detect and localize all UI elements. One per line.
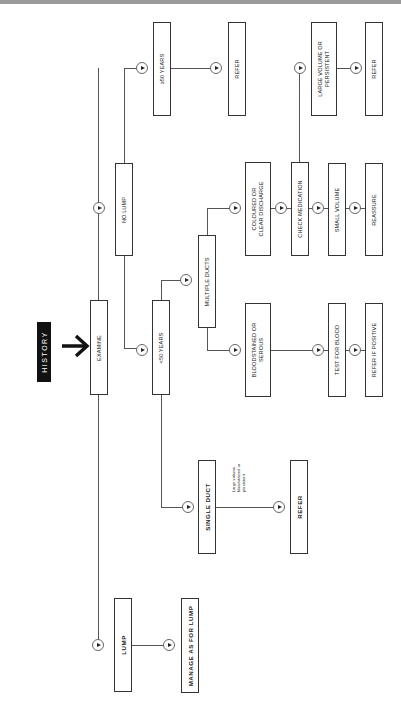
test-for-blood-text: TEST FOR BLOOD: [334, 325, 341, 375]
play-circle-icon: [92, 639, 104, 651]
play-circle-icon: [312, 344, 324, 356]
examine-text: EXAMINE: [96, 335, 103, 361]
check-medication-text: CHECK MEDICATION: [297, 180, 304, 237]
play-circle-icon: [294, 62, 306, 74]
connector-line: [207, 328, 208, 350]
refer-text: REFER: [371, 59, 378, 78]
play-circle-icon: [163, 639, 175, 651]
over-50-box: ≥50 YEARS: [153, 22, 171, 116]
play-circle-icon: [312, 202, 324, 214]
play-circle-icon: [229, 202, 241, 214]
bloodstained-or-serous-box: BLOODSTAINED OR SEROUS: [245, 303, 271, 397]
single-duct-text: SINGLE DUCT: [204, 483, 211, 530]
bloodstained-or-serous-text: BLOODSTAINED OR SEROUS: [251, 323, 265, 378]
refer-text: REFER: [296, 495, 303, 518]
play-circle-icon: [93, 202, 105, 214]
connector-line: [170, 68, 215, 69]
play-circle-icon: [180, 274, 192, 286]
connector-line: [215, 507, 277, 508]
under-50-box: <50 YEARS: [152, 300, 170, 395]
single-duct-condition-note: Large volume, bloodstained or persistent: [231, 464, 246, 493]
connector-line: [98, 68, 99, 301]
refer-single-duct-box: REFER: [290, 460, 308, 554]
reassure-box: REASSURE: [365, 163, 383, 256]
connector-line: [161, 280, 162, 300]
refer-large-volume-box: REFER: [365, 22, 383, 116]
play-circle-icon: [350, 62, 362, 74]
top-border-band: [0, 0, 401, 4]
manage-as-for-lump-text: MANAGE AS FOR LUMP: [187, 605, 194, 686]
history-text: HISTORY: [41, 331, 48, 372]
coloured-or-clear-text: COLOURED OR CLEAR DISCHARGE: [251, 182, 265, 237]
large-volume-box: LARGE VOLUME OR PERSISTENT: [311, 22, 337, 116]
test-for-blood-box: TEST FOR BLOOD: [328, 303, 346, 397]
connector-line: [207, 208, 208, 235]
small-volume-box: SMALL VOLUME: [328, 163, 346, 256]
lump-text: LUMP: [120, 635, 127, 655]
refer-text: REFER: [234, 59, 241, 78]
connector-line: [299, 68, 300, 162]
refer-if-positive-box: REFER IF POSITIVE: [365, 303, 383, 397]
large-volume-text: LARGE VOLUME OR PERSISTENT: [317, 41, 331, 97]
multiple-ducts-text: MULTIPLE DUCTS: [204, 257, 211, 306]
connector-line: [124, 68, 125, 163]
no-lump-box: NO LUMP: [115, 163, 133, 256]
small-volume-text: SMALL VOLUME: [334, 187, 341, 232]
arrow-right-icon: [60, 334, 90, 358]
check-medication-box: CHECK MEDICATION: [291, 162, 309, 256]
refer-if-positive-text: REFER IF POSITIVE: [371, 323, 378, 378]
reassure-text: REASSURE: [371, 194, 378, 226]
refer-over-50-box: REFER: [228, 22, 246, 116]
play-circle-icon: [349, 202, 361, 214]
lump-box: LUMP: [114, 598, 132, 692]
coloured-or-clear-box: COLOURED OR CLEAR DISCHARGE: [245, 162, 271, 256]
play-circle-icon: [275, 202, 287, 214]
multiple-ducts-box: MULTIPLE DUCTS: [198, 235, 216, 328]
play-circle-icon: [182, 501, 194, 513]
no-lump-text: NO LUMP: [121, 196, 128, 222]
history-label: HISTORY: [37, 322, 51, 382]
play-circle-icon: [229, 344, 241, 356]
play-circle-icon: [273, 501, 285, 513]
connector-line: [161, 395, 162, 507]
under-50-text: <50 YEARS: [158, 332, 165, 363]
examine-box: EXAMINE: [90, 300, 108, 395]
play-circle-icon: [136, 344, 148, 356]
connector-line: [98, 395, 99, 645]
connector-line: [124, 255, 125, 348]
over-50-text: ≥50 YEARS: [159, 54, 166, 85]
play-circle-icon: [349, 344, 361, 356]
play-circle-icon: [210, 62, 222, 74]
play-circle-icon: [136, 62, 148, 74]
single-duct-box: SINGLE DUCT: [198, 460, 216, 554]
manage-as-for-lump-box: MANAGE AS FOR LUMP: [181, 598, 199, 693]
